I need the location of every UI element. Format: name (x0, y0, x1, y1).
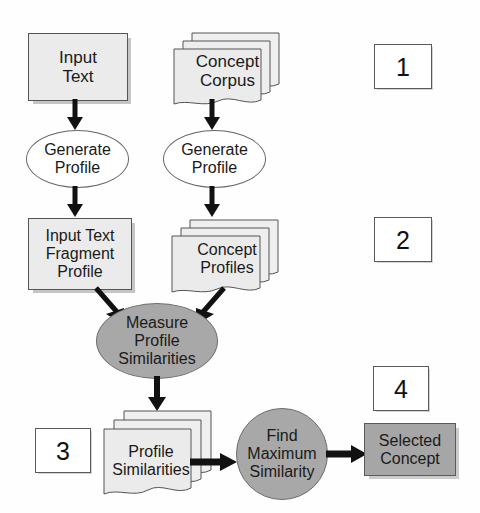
edge-concept-corpus-to-generate-profile (200, 99, 224, 131)
node-input-text: Input Text (28, 33, 128, 101)
node-find-maximum-similarity-label: Find Maximum Similarity (247, 427, 316, 481)
edge-input-text-to-generate-profile (63, 99, 87, 131)
node-measure-profile-similarities-label: Measure Profile Similarities (118, 314, 195, 368)
step-marker-2-label: 2 (396, 226, 410, 254)
edge-generate-profile-to-input-text-fragment-profile (63, 186, 87, 218)
node-selected-concept-label: Selected Concept (379, 432, 441, 468)
edge-profile-similarities-to-find-maximum (190, 451, 238, 473)
flowchart-diagram: 1 2 3 4 Input Text Concept Corpus (0, 0, 480, 513)
node-generate-profile-right-label: Generate Profile (181, 141, 248, 177)
node-input-text-fragment-profile: Input Text Fragment Profile (28, 218, 132, 290)
node-generate-profile-right: Generate Profile (163, 130, 266, 188)
step-marker-4: 4 (373, 366, 429, 411)
step-marker-1: 1 (374, 44, 432, 89)
node-input-text-label: Input Text (59, 48, 97, 86)
node-concept-corpus: Concept Corpus (170, 26, 285, 108)
node-input-text-fragment-profile-label: Input Text Fragment Profile (45, 227, 114, 281)
node-selected-concept: Selected Concept (364, 423, 456, 476)
document-stack-icon (170, 26, 285, 108)
step-marker-1-label: 1 (396, 53, 410, 81)
step-marker-3-label: 3 (56, 437, 70, 465)
step-marker-3: 3 (35, 428, 91, 473)
step-marker-2: 2 (374, 217, 432, 262)
step-marker-4-label: 4 (394, 375, 408, 403)
edge-find-maximum-to-selected-concept (326, 443, 368, 465)
node-generate-profile-left-label: Generate Profile (44, 141, 111, 177)
node-measure-profile-similarities: Measure Profile Similarities (96, 303, 218, 379)
node-generate-profile-left: Generate Profile (26, 130, 129, 188)
node-find-maximum-similarity: Find Maximum Similarity (236, 408, 328, 500)
